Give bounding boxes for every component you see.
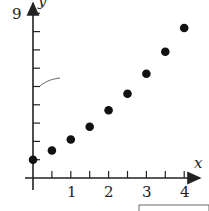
y-ticks	[33, 13, 40, 159]
x-tick-label-4: 4	[180, 183, 190, 201]
x-tick-label-2: 2	[104, 183, 114, 201]
data-point	[85, 122, 94, 131]
scatter-plot: 9 y x 1 2 3 4	[0, 0, 209, 211]
y-max-label: 9	[12, 5, 22, 23]
data-point	[161, 47, 170, 56]
data-point	[48, 146, 57, 155]
y-axis-label: y	[37, 0, 47, 10]
x-tick-label-3: 3	[142, 183, 152, 201]
data-point	[123, 90, 132, 99]
data-point	[142, 69, 151, 78]
x-tick-label-1: 1	[67, 183, 77, 201]
x-axis-label: x	[194, 154, 203, 172]
data-point	[180, 24, 189, 33]
x-ticks	[52, 171, 184, 178]
data-point	[104, 106, 113, 115]
data-point	[67, 135, 76, 144]
data-point	[29, 155, 38, 164]
data-points	[29, 24, 189, 164]
answer-box	[139, 205, 209, 211]
pencil-mark	[40, 78, 60, 86]
